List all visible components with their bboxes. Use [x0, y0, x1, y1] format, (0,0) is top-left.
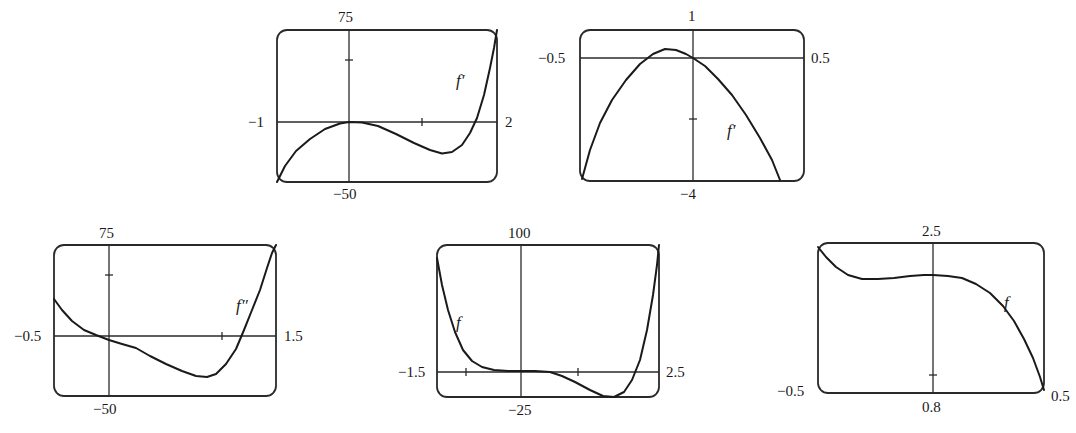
function-label: f — [1004, 293, 1011, 312]
xmin-label: −0.5 — [538, 50, 565, 66]
graph-f-double-prime: 75 −50 −0.5 1.5 f″ — [14, 225, 303, 417]
ymin-label: −50 — [333, 186, 356, 202]
function-curve — [818, 247, 1044, 390]
graph-f-prime-1: 75 −50 −1 2 f′ — [248, 9, 513, 202]
xmin-label: −0.5 — [777, 383, 804, 399]
graph-frame — [818, 243, 1044, 393]
xmin-label: −1.5 — [398, 364, 425, 380]
graph-frame — [277, 30, 497, 182]
ymin-label: −25 — [508, 402, 531, 418]
xmax-label: 1.5 — [284, 328, 303, 344]
xmax-label: 0.5 — [1051, 388, 1070, 404]
graph-f-middle: 100 −25 −1.5 2.5 f — [398, 225, 685, 418]
xmin-label: −0.5 — [14, 328, 41, 344]
ymax-label: 75 — [99, 225, 114, 241]
ymin-label: −4 — [680, 186, 696, 202]
graph-f-prime-2: 1 −4 −0.5 0.5 f′ — [538, 8, 830, 202]
xmax-label: 0.5 — [811, 50, 830, 66]
ymin-label: 0.8 — [922, 399, 941, 415]
graph-frame — [54, 245, 276, 396]
xmax-label: 2 — [505, 114, 513, 130]
function-label: f″ — [236, 296, 249, 315]
ymin-label: −50 — [93, 401, 116, 417]
function-label: f′ — [456, 71, 465, 90]
ymax-label: 2.5 — [922, 223, 941, 239]
graph-f-right: 2.5 0.8 −0.5 0.5 f — [777, 223, 1070, 415]
axis-ticks — [105, 275, 222, 340]
graph-frame — [437, 245, 659, 397]
xmin-label: −1 — [248, 114, 264, 130]
xmax-label: 2.5 — [666, 364, 685, 380]
graph-canvas: 75 −50 −1 2 f′ 1 −4 −0.5 0.5 f′ 75 −50 −… — [0, 0, 1076, 433]
ymax-label: 1 — [688, 8, 696, 24]
function-curve — [582, 49, 780, 180]
function-curve — [437, 245, 659, 397]
function-label: f′ — [727, 121, 736, 140]
function-label: f — [456, 313, 463, 332]
function-curve — [277, 30, 497, 182]
ymax-label: 100 — [508, 225, 531, 241]
ymax-label: 75 — [338, 9, 353, 25]
axis-ticks — [345, 60, 422, 126]
